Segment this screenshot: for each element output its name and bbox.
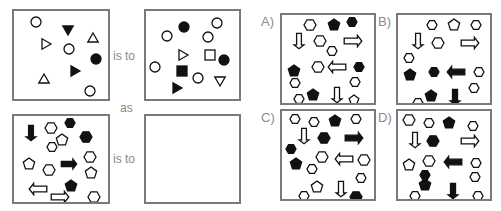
tri-up-icon [39, 74, 49, 83]
tri-down-icon [215, 77, 225, 86]
arrow-down-icon [336, 181, 346, 196]
arrow-down-icon [448, 183, 458, 198]
arrow-down-icon [294, 33, 304, 48]
panel-2 [144, 9, 241, 101]
hex-icon [358, 155, 370, 165]
pent-icon [448, 19, 459, 30]
pent-icon [403, 159, 414, 170]
hex-icon [432, 38, 444, 48]
hex-icon [84, 152, 96, 162]
hex-icon [471, 159, 481, 168]
option-a-shapes [282, 15, 374, 103]
option-c-shapes [282, 111, 374, 199]
hex-icon [45, 123, 57, 133]
circle-icon [91, 54, 101, 64]
circle-icon [219, 55, 229, 65]
hex-icon [403, 115, 415, 125]
arrow-down-icon [332, 87, 342, 102]
circle-icon [179, 22, 189, 32]
pent-icon [328, 19, 339, 30]
pent-icon [85, 167, 96, 178]
tri-right-icon [71, 66, 80, 76]
hex-icon [88, 192, 100, 202]
hex-icon [474, 68, 484, 77]
option-b[interactable] [396, 13, 492, 105]
arrow-left-icon [335, 153, 353, 164]
arrow-down-icon [413, 33, 423, 48]
hex-icon [470, 173, 480, 182]
hex-icon [350, 192, 362, 199]
hex-icon [354, 63, 364, 72]
arrow-right-icon [51, 191, 69, 202]
option-c[interactable] [280, 109, 376, 201]
hex-icon [424, 119, 434, 128]
hex-icon [427, 136, 439, 146]
tri-right-icon [42, 39, 51, 49]
hex-icon [314, 36, 326, 46]
circle-icon [203, 32, 213, 42]
hex-icon [347, 18, 357, 27]
panel-3-shapes [14, 116, 108, 202]
panel-1 [12, 9, 110, 101]
hex-icon [318, 133, 330, 143]
hex-icon [304, 20, 316, 30]
option-d[interactable] [396, 109, 492, 201]
panel-2-shapes [146, 11, 239, 99]
hex-icon [47, 143, 57, 152]
pent-icon [419, 179, 430, 190]
hex-icon [316, 152, 328, 162]
hex-icon [468, 122, 478, 131]
arrow-right-icon [345, 132, 363, 143]
pent-icon [65, 180, 76, 191]
option-a[interactable] [280, 13, 376, 105]
arrow-left-icon [328, 61, 346, 72]
circle-icon [162, 31, 172, 41]
arrow-right-icon [461, 37, 479, 48]
arrow-right-icon [461, 135, 479, 146]
arrow-right-icon [61, 159, 76, 169]
hex-icon [410, 192, 420, 199]
option-b-shapes [398, 15, 490, 103]
circle-icon [31, 17, 41, 27]
hex-icon [290, 115, 300, 124]
hex-icon [413, 99, 423, 103]
arrow-right-icon [344, 35, 362, 46]
tri-down-icon [63, 26, 73, 35]
pent-icon [404, 69, 415, 80]
circle-icon [85, 86, 95, 96]
connector-as: as [120, 101, 133, 115]
hex-icon [327, 47, 337, 56]
option-b-label: B) [378, 14, 391, 29]
square-icon [205, 50, 215, 60]
arrow-down-icon [26, 125, 36, 140]
option-c-label: C) [261, 110, 275, 125]
arrow-down-icon [410, 132, 420, 147]
option-a-label: A) [261, 14, 274, 29]
pent-icon [307, 89, 318, 100]
hex-icon [350, 78, 360, 87]
connector-is-to-bottom: is to [113, 152, 135, 166]
hex-icon [351, 115, 361, 124]
hex-icon [80, 132, 92, 142]
hex-icon [309, 118, 319, 127]
pent-icon [311, 181, 322, 192]
hex-icon [404, 54, 414, 63]
pent-icon [56, 134, 67, 145]
pent-icon [443, 117, 454, 128]
arrow-left-icon [29, 183, 47, 194]
pent-icon [349, 95, 359, 103]
hex-icon [307, 165, 317, 174]
panel-3 [12, 114, 110, 204]
hex-icon [43, 165, 55, 175]
tri-up-icon [88, 33, 98, 42]
circle-icon [212, 18, 222, 28]
arrow-down-icon [299, 128, 309, 143]
hex-icon [473, 192, 483, 199]
arrow-down-icon [450, 89, 460, 103]
arrow-left-icon [447, 66, 465, 77]
circle-icon [193, 73, 203, 83]
tri-right-icon [179, 50, 188, 60]
hex-icon [286, 145, 296, 154]
hex-icon [429, 68, 439, 77]
panel-1-shapes [14, 11, 108, 99]
